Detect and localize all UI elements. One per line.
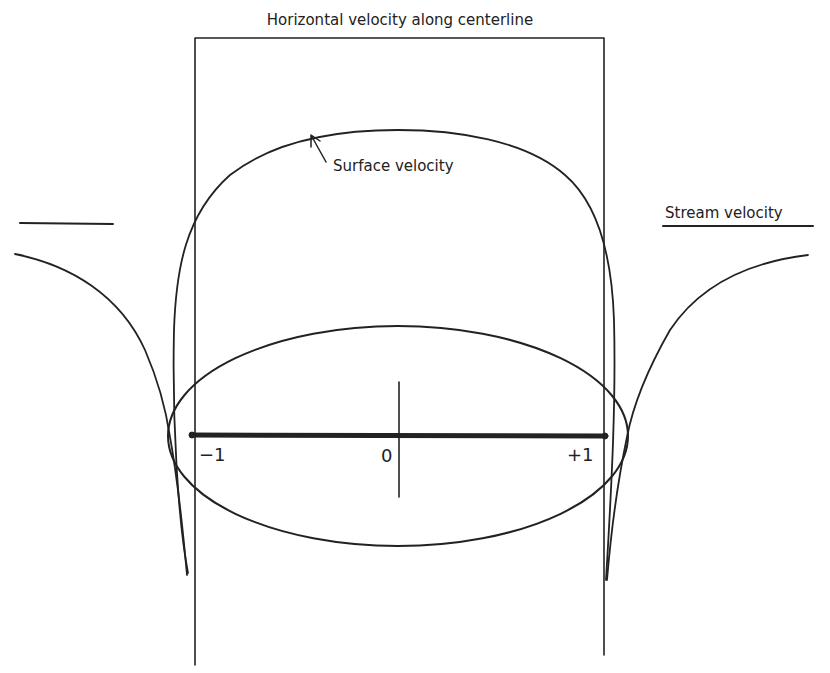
centerline-velocity-curve-right — [607, 255, 808, 580]
stream-velocity-label: Stream velocity — [665, 204, 783, 222]
velocity-diagram: Horizontal velocity along centerline Sur… — [0, 0, 830, 673]
centerline-velocity-curve-left — [15, 254, 187, 575]
tick-label-minus-one: −1 — [199, 444, 226, 465]
surface-velocity-arrow — [311, 135, 326, 162]
surface-velocity-label: Surface velocity — [333, 157, 454, 175]
centerline-end-right — [602, 433, 608, 439]
centerline-end-left — [189, 432, 195, 438]
centerline-axis — [192, 435, 605, 436]
surface-velocity-curve — [174, 130, 615, 580]
tick-label-zero: 0 — [381, 445, 392, 466]
diagram-title: Horizontal velocity along centerline — [267, 11, 533, 29]
stream-velocity-line-left — [20, 223, 113, 224]
tick-label-plus-one: +1 — [567, 444, 594, 465]
